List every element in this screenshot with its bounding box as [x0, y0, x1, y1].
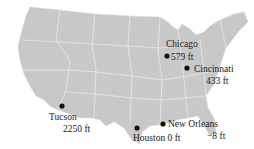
marker-cincinnati[interactable]: [184, 65, 189, 70]
city-label-houston: Houston 0 ft: [133, 133, 181, 143]
elevation-label-chicago: 579 ft: [171, 52, 193, 62]
elevation-label-new-orleans: −8 ft: [207, 131, 225, 141]
city-label-chicago: Chicago: [166, 39, 198, 49]
city-label-tucson: Tucson: [49, 112, 77, 122]
marker-new-orleans[interactable]: [160, 121, 165, 126]
marker-houston[interactable]: [134, 125, 139, 130]
city-label-new-orleans: New Orleans: [168, 119, 218, 129]
city-label-cincinnati: Cincinnati: [194, 64, 234, 74]
elevation-label-tucson: 2250 ft: [63, 124, 90, 134]
elevation-label-cincinnati: 433 ft: [206, 76, 228, 86]
marker-chicago[interactable]: [164, 53, 169, 58]
marker-tucson[interactable]: [59, 103, 64, 108]
